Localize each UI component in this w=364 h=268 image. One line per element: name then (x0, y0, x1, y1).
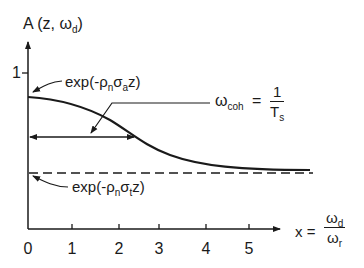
x-tick-label: 1 (68, 241, 77, 257)
annot-post: z) (128, 73, 141, 90)
annot-sigma: σ (113, 73, 122, 90)
x-tick-label: 0 (24, 241, 33, 257)
y-axis-label-main: A (z, ω (23, 15, 72, 32)
equals-sign: = (252, 92, 261, 109)
upper-label-leader (33, 81, 62, 92)
dashed-line-annotation: exp(-ρnσtz) (72, 179, 145, 194)
annot-sigma: σ (120, 178, 129, 195)
x-tick-label: 5 (245, 241, 254, 257)
x-axis-label-fraction: ωd ωr (324, 210, 345, 245)
x-num-main: ω (326, 209, 338, 226)
y-axis-label: A (z, ωd) (23, 16, 83, 32)
fraction-denominator: Ts (270, 102, 284, 119)
x-tick-label: 3 (155, 241, 164, 257)
denominator-main: T (270, 103, 279, 120)
annot-pre: exp(-ρ (72, 178, 115, 195)
amplitude-curve (28, 97, 310, 170)
annot-sub-n: n (115, 187, 121, 198)
coh-subscript: coh (228, 101, 244, 112)
annot-sub-n: n (108, 82, 114, 93)
x-label-denominator: ωr (327, 228, 342, 245)
coherence-annotation: ωcoh = (215, 93, 261, 109)
lower-label-leader (33, 176, 68, 187)
annot-pre: exp(-ρ (65, 73, 108, 90)
y-axis-label-sub: d (72, 24, 78, 35)
denominator-sub: s (279, 112, 284, 123)
x-tick-label: 4 (202, 241, 211, 257)
x-label-numerator: ωd (324, 210, 345, 227)
omega-symbol: ω (215, 92, 228, 109)
x-tick-label: 2 (115, 241, 124, 257)
annot-sub-a: a (123, 82, 129, 93)
y-tick-label-1: 1 (12, 65, 21, 81)
annot-sub-t: t (130, 187, 133, 198)
annot-post: z) (132, 178, 145, 195)
x-axis-label-prefix: x = (295, 224, 315, 239)
coherence-leader-line (91, 103, 210, 133)
upper-curve-annotation: exp(-ρnσaz) (65, 74, 141, 89)
fraction-numerator: 1 (271, 84, 283, 101)
y-axis-label-close: ) (78, 15, 83, 32)
coherence-fraction: 1 Ts (270, 84, 284, 119)
x-den-sub: r (339, 238, 342, 249)
x-num-sub: d (338, 218, 344, 229)
x-den-main: ω (327, 229, 339, 246)
